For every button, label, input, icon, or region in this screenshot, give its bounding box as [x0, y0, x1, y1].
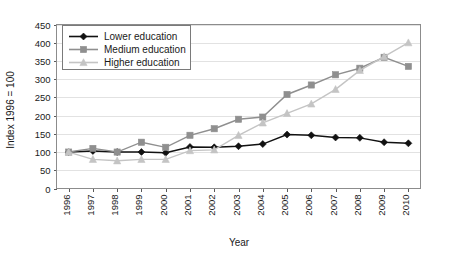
x-tick-label: 2001 — [182, 195, 193, 216]
data-point — [356, 134, 363, 141]
data-point — [308, 132, 315, 139]
x-tick-label: 2003 — [231, 195, 242, 216]
data-point — [211, 126, 217, 132]
data-point — [405, 39, 412, 46]
legend-marker — [80, 46, 86, 52]
x-tick-label: 2005 — [279, 195, 290, 216]
data-point — [332, 134, 339, 141]
x-axis-tick-labels: 1996199719981999200020012002200320042005… — [61, 195, 411, 216]
legend-label: Lower education — [104, 31, 177, 42]
y-tick-label: 250 — [35, 92, 51, 103]
x-tick-label: 1997 — [85, 195, 96, 216]
y-tick-label: 0 — [45, 184, 50, 195]
y-tick-label: 200 — [35, 111, 51, 122]
x-tick-label: 2009 — [376, 195, 387, 216]
x-tick-label: 1999 — [133, 195, 144, 216]
x-tick-label: 2000 — [158, 195, 169, 216]
data-point — [259, 141, 266, 148]
y-axis-tick-labels: 050100150200250300350400450 — [35, 20, 51, 195]
data-point — [138, 139, 144, 145]
data-point — [332, 72, 338, 78]
data-point — [114, 149, 120, 155]
chart-container: 050100150200250300350400450 199619971998… — [0, 0, 467, 254]
y-tick-label: 300 — [35, 74, 51, 85]
x-tick-label: 1998 — [109, 195, 120, 216]
data-point — [235, 143, 242, 150]
x-tick-label: 2006 — [303, 195, 314, 216]
x-tick-label: 2008 — [352, 195, 363, 216]
x-axis-title: Year — [229, 237, 250, 248]
x-tick-label: 2010 — [400, 195, 411, 216]
data-point — [187, 132, 193, 138]
legend-label: Higher education — [104, 57, 180, 68]
x-tick-label: 2002 — [206, 195, 217, 216]
data-point — [284, 91, 290, 97]
y-tick-label: 350 — [35, 56, 51, 67]
data-point — [235, 116, 241, 122]
y-tick-label: 150 — [35, 129, 51, 140]
x-tick-label: 2007 — [328, 195, 339, 216]
data-point — [381, 139, 388, 146]
chart-legend: Lower educationMedium educationHigher ed… — [62, 26, 190, 70]
y-axis-title: Index 1996 = 100 — [5, 71, 16, 149]
data-point — [90, 145, 96, 151]
y-tick-label: 450 — [35, 20, 51, 31]
x-tick-label: 2004 — [255, 195, 266, 216]
data-point — [308, 82, 314, 88]
data-point — [405, 140, 412, 147]
x-tick-label: 1996 — [61, 195, 72, 216]
legend-label: Medium education — [104, 44, 186, 55]
data-point — [308, 100, 315, 107]
data-point — [284, 131, 291, 138]
line-chart: 050100150200250300350400450 199619971998… — [0, 0, 467, 254]
data-point — [163, 144, 169, 150]
y-tick-label: 100 — [35, 147, 51, 158]
y-tick-label: 400 — [35, 38, 51, 49]
data-point — [138, 149, 145, 156]
y-tick-label: 50 — [40, 165, 51, 176]
data-point — [405, 63, 411, 69]
